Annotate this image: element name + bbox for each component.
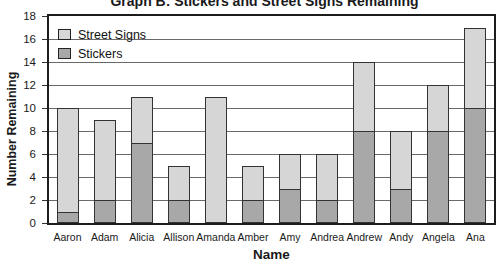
bar-segment-street-signs — [353, 62, 375, 131]
legend-label: Street Signs — [78, 28, 146, 42]
legend-swatch-icon — [58, 48, 71, 59]
bar-segment-street-signs — [390, 131, 412, 189]
legend-entry: Stickers — [58, 44, 146, 63]
bar-segment-stickers — [464, 108, 486, 223]
x-axis-title: Name — [47, 247, 496, 262]
chart-screenshot: Graph B: Stickers and Street Signs Remai… — [0, 0, 502, 268]
y-tick-label: 12 — [23, 79, 36, 91]
plot-area: Street SignsStickers — [47, 14, 496, 225]
y-axis-ticks: 024681012141618 — [0, 16, 47, 223]
bar-amber — [242, 166, 264, 224]
bar-segment-stickers — [168, 200, 190, 223]
bar-segment-street-signs — [205, 97, 227, 224]
y-tick-label: 10 — [23, 102, 36, 114]
y-tick-label: 2 — [30, 194, 36, 206]
bar-segment-street-signs — [316, 154, 338, 200]
x-label-amanda: Amanda — [196, 231, 235, 243]
legend: Street SignsStickers — [58, 25, 146, 63]
x-label-andy: Andy — [389, 231, 413, 243]
x-label-andrew: Andrew — [346, 231, 382, 243]
bar-segment-stickers — [242, 200, 264, 223]
y-tick-label: 6 — [30, 148, 36, 160]
x-axis-labels: AaronAdamAliciaAllisonAmandaAmberAmyAndr… — [47, 231, 496, 245]
bar-segment-street-signs — [427, 85, 449, 131]
bar-andy — [390, 131, 412, 223]
bar-segment-stickers — [279, 189, 301, 224]
x-label-amy: Amy — [280, 231, 301, 243]
bar-allison — [168, 166, 190, 224]
bar-aaron — [57, 108, 79, 223]
bar-segment-street-signs — [464, 28, 486, 109]
bar-segment-street-signs — [131, 97, 153, 143]
legend-entry: Street Signs — [58, 25, 146, 44]
bar-amanda — [205, 97, 227, 224]
chart-title: Graph B: Stickers and Street Signs Remai… — [40, 0, 489, 9]
x-label-alicia: Alicia — [129, 231, 154, 243]
bar-segment-stickers — [353, 131, 375, 223]
bar-segment-stickers — [131, 143, 153, 224]
y-tick-label: 4 — [30, 171, 36, 183]
y-tick-label: 16 — [23, 33, 36, 45]
legend-label: Stickers — [78, 47, 122, 61]
bar-alicia — [131, 97, 153, 224]
x-label-andrea: Andrea — [310, 231, 344, 243]
bar-angela — [427, 85, 449, 223]
legend-swatch-icon — [58, 29, 71, 40]
bar-segment-street-signs — [168, 166, 190, 201]
bar-ana — [464, 28, 486, 224]
bar-segment-street-signs — [242, 166, 264, 201]
y-tick-label: 14 — [23, 56, 36, 68]
bar-segment-street-signs — [279, 154, 301, 189]
bar-segment-street-signs — [57, 108, 79, 212]
bar-adam — [94, 120, 116, 224]
bar-amy — [279, 154, 301, 223]
y-tick-label: 0 — [30, 217, 36, 229]
bar-segment-stickers — [390, 189, 412, 224]
x-label-amber: Amber — [237, 231, 268, 243]
y-tick-label: 18 — [23, 10, 36, 22]
x-label-aaron: Aaron — [54, 231, 82, 243]
x-label-angela: Angela — [422, 231, 455, 243]
x-label-ana: Ana — [466, 231, 485, 243]
bar-andrea — [316, 154, 338, 223]
bar-segment-stickers — [427, 131, 449, 223]
bar-segment-street-signs — [94, 120, 116, 201]
x-label-allison: Allison — [163, 231, 194, 243]
bar-segment-stickers — [94, 200, 116, 223]
bar-segment-stickers — [57, 212, 79, 224]
y-tick-label: 8 — [30, 125, 36, 137]
x-label-adam: Adam — [91, 231, 118, 243]
bar-andrew — [353, 62, 375, 223]
bar-segment-stickers — [316, 200, 338, 223]
